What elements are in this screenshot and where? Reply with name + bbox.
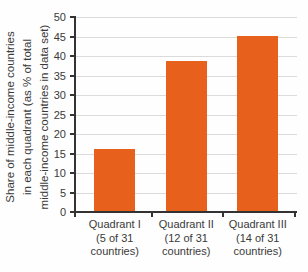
- x-axis-tick-1: [151, 212, 153, 217]
- y-axis-tick-10: [70, 172, 75, 174]
- y-axis-tick-35: [70, 75, 75, 77]
- bar-2: [166, 61, 207, 212]
- y-axis-tick-30: [70, 94, 75, 96]
- y-axis-tick-20: [70, 133, 75, 135]
- y-tick-label-10: 10: [38, 168, 66, 179]
- y-tick-label-0: 0: [38, 207, 66, 218]
- y-axis-tick-25: [70, 114, 75, 116]
- y-tick-label-30: 30: [38, 90, 66, 101]
- x-axis-tick-3: [294, 212, 296, 217]
- y-tick-label-15: 15: [38, 149, 66, 160]
- y-tick-label-25: 25: [38, 110, 66, 121]
- x-axis-tick-0: [74, 212, 76, 217]
- bar-1: [94, 149, 135, 212]
- bar-chart: Share of middle-income countries in each…: [0, 0, 308, 272]
- y-axis-tick-15: [70, 153, 75, 155]
- x-axis-line: [74, 211, 297, 213]
- y-tick-label-20: 20: [38, 129, 66, 140]
- x-category-label-line: Quadrant III: [208, 218, 308, 232]
- bar-3: [237, 36, 278, 212]
- y-axis-tick-40: [70, 55, 75, 57]
- x-axis-tick-2: [222, 212, 224, 217]
- x-category-label-line: (14 of 31: [208, 232, 308, 246]
- y-tick-label-45: 45: [38, 32, 66, 43]
- y-axis-tick-45: [70, 36, 75, 38]
- gridline-50: [75, 17, 297, 18]
- y-tick-label-50: 50: [38, 12, 66, 23]
- y-axis-tick-50: [70, 16, 75, 18]
- y-axis-tick-5: [70, 192, 75, 194]
- y-tick-label-40: 40: [38, 51, 66, 62]
- x-category-label-line: countries): [208, 245, 308, 259]
- y-axis-title-line-2: in each quadrant (as % of total: [19, 4, 36, 230]
- x-category-label-3: Quadrant III(14 of 31countries): [208, 218, 308, 259]
- plot-area: [75, 17, 297, 212]
- y-tick-label-5: 5: [38, 188, 66, 199]
- y-axis-title-line-1: Share of middle-income countries: [2, 4, 19, 230]
- y-tick-label-35: 35: [38, 71, 66, 82]
